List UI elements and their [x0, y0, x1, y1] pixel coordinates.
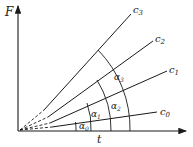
line-c0	[52, 112, 157, 127]
label-c1: c1	[169, 64, 179, 77]
line-c3	[44, 14, 131, 110]
label-alpha1: α1	[91, 109, 101, 120]
y-axis-label: F	[4, 5, 14, 19]
arc-alpha0	[76, 122, 77, 131]
label-c0: c0	[160, 106, 171, 119]
arc-alpha2	[97, 80, 111, 131]
line-c1	[50, 71, 167, 123]
label-alpha0: α0	[79, 121, 89, 132]
force-time-diagram: F t c3 c2 c1 c0 α0 α1 α2 α3	[0, 0, 193, 147]
x-axis-label: t	[97, 133, 102, 146]
label-alpha3: α3	[114, 72, 124, 83]
label-c3: c3	[133, 4, 144, 17]
label-c2: c2	[155, 33, 166, 46]
dashed-extensions	[20, 110, 52, 130]
label-alpha2: α2	[111, 101, 121, 112]
